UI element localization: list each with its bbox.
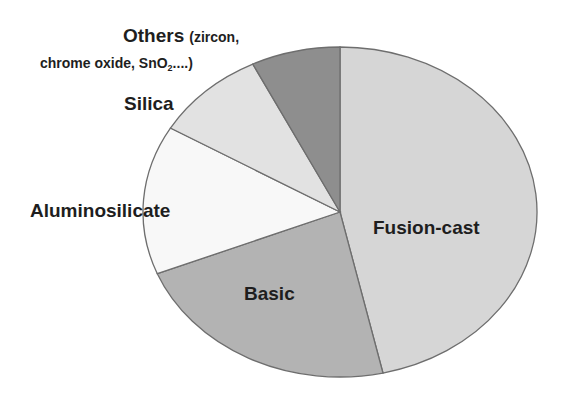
label-others-end: ....) [173,55,193,71]
label-others-line2: chrome oxide, SnO2....) [40,55,193,73]
label-others-detail: (zircon, [189,29,239,45]
label-others: Others [123,25,184,46]
label-fusion-cast: Fusion-cast [373,217,480,238]
label-silica: Silica [124,93,174,114]
label-aluminosilicate: Aluminosilicate [30,200,170,221]
label-basic: Basic [244,283,295,304]
label-others-line1: Others(zircon, [123,25,239,46]
pie-slices [143,47,537,377]
label-others-line2-text: chrome oxide, SnO [40,55,168,71]
pie-chart: Fusion-cast Basic Aluminosilicate Silica… [0,0,571,405]
